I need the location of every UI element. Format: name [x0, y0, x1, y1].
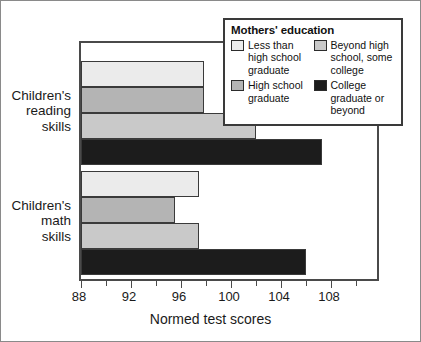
category-label-line: skills: [0, 119, 71, 135]
x-tick: [131, 279, 132, 288]
legend-label: College graduate or beyond: [331, 79, 397, 116]
legend-swatch-icon: [231, 40, 244, 51]
x-tick: [281, 279, 282, 288]
legend-entry: College graduate or beyond: [314, 79, 397, 116]
x-tick: [206, 279, 207, 286]
legend-swatch-icon: [314, 40, 327, 51]
x-tick: [306, 279, 307, 286]
x-tick-label: 92: [122, 289, 136, 304]
legend-entry: Less than high school graduate: [231, 39, 314, 76]
chart-figure: 889296100104108 Normed test scores Child…: [0, 0, 421, 342]
x-axis-title: Normed test scores: [1, 311, 420, 327]
x-tick-label: 96: [172, 289, 186, 304]
x-tick: [81, 279, 82, 288]
category-label-line: skills: [0, 229, 71, 245]
category-label-line: Children's: [0, 198, 71, 214]
x-tick: [356, 279, 357, 286]
category-label-line: math: [0, 213, 71, 229]
legend-title: Mothers' education: [231, 24, 396, 36]
x-tick: [256, 279, 257, 286]
legend-entry: High school graduate: [231, 79, 314, 104]
x-tick: [181, 279, 182, 288]
bar: [81, 87, 204, 113]
bar: [81, 61, 204, 87]
bar: [81, 139, 322, 165]
legend: Mothers' education Less than high school…: [223, 18, 403, 126]
legend-column-left: Less than high school graduateHigh schoo…: [231, 39, 314, 119]
x-tick-label: 108: [318, 289, 340, 304]
legend-label: High school graduate: [248, 79, 314, 104]
x-tick-label: 88: [72, 289, 86, 304]
legend-label: Less than high school graduate: [248, 39, 314, 76]
category-label-reading: Children'sreadingskills: [0, 88, 71, 135]
legend-label: Beyond high school, some college: [331, 39, 397, 76]
x-tick: [106, 279, 107, 286]
x-tick-label: 100: [218, 289, 240, 304]
legend-items: Less than high school graduateHigh schoo…: [231, 39, 396, 119]
x-tick: [156, 279, 157, 286]
bar: [81, 171, 199, 197]
bar: [81, 197, 175, 223]
legend-swatch-icon: [314, 80, 327, 91]
legend-column-right: Beyond high school, some collegeCollege …: [314, 39, 397, 119]
category-label-line: reading: [0, 103, 71, 119]
x-tick: [331, 279, 332, 288]
category-label-math: Children'smathskills: [0, 198, 71, 245]
bar: [81, 249, 306, 275]
legend-swatch-icon: [231, 80, 244, 91]
bar: [81, 223, 199, 249]
category-label-line: Children's: [0, 88, 71, 104]
legend-entry: Beyond high school, some college: [314, 39, 397, 76]
x-tick: [231, 279, 232, 288]
x-tick-label: 104: [268, 289, 290, 304]
